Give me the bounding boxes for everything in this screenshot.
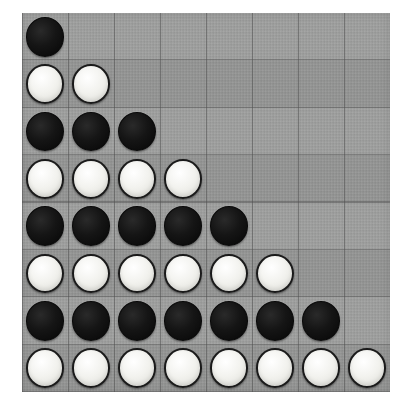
board-cell-grid [22, 13, 390, 392]
board-cell-e2[interactable] [206, 60, 252, 107]
board-cell-a2[interactable] [22, 60, 68, 107]
board-cell-f4[interactable] [252, 155, 298, 202]
board-cell-g6[interactable] [298, 250, 344, 297]
white-stone-b8 [72, 348, 111, 388]
white-stone-c8 [118, 348, 157, 388]
board-cell-d4[interactable] [160, 155, 206, 202]
board-cell-f6[interactable] [252, 250, 298, 297]
black-stone-a1 [26, 17, 65, 57]
board-cell-e5[interactable] [206, 203, 252, 250]
board-cell-c4[interactable] [114, 155, 160, 202]
black-stone-c7 [118, 301, 157, 341]
board-cell-h3[interactable] [344, 108, 390, 155]
white-stone-c4 [118, 159, 157, 199]
board-cell-c1[interactable] [114, 13, 160, 60]
board-cell-c7[interactable] [114, 297, 160, 344]
white-stone-f8 [256, 348, 295, 388]
board-cell-g1[interactable] [298, 13, 344, 60]
white-stone-f6 [256, 254, 295, 294]
black-stone-c3 [118, 112, 157, 152]
board-cell-a5[interactable] [22, 203, 68, 250]
black-stone-c5 [118, 206, 157, 246]
black-stone-e7 [210, 301, 249, 341]
white-stone-e8 [210, 348, 249, 388]
black-stone-d7 [164, 301, 203, 341]
board-cell-h8[interactable] [344, 345, 390, 392]
white-stone-a8 [26, 348, 65, 388]
white-stone-b2 [72, 64, 111, 104]
board-cell-e1[interactable] [206, 13, 252, 60]
board-cell-f1[interactable] [252, 13, 298, 60]
board-cell-a8[interactable] [22, 345, 68, 392]
white-stone-d4 [164, 159, 203, 199]
board-cell-c8[interactable] [114, 345, 160, 392]
black-stone-g7 [302, 301, 341, 341]
board-cell-a1[interactable] [22, 13, 68, 60]
board-cell-b6[interactable] [68, 250, 114, 297]
board-cell-g7[interactable] [298, 297, 344, 344]
white-stone-e6 [210, 254, 249, 294]
board-cell-d1[interactable] [160, 13, 206, 60]
board-cell-d7[interactable] [160, 297, 206, 344]
white-stone-b6 [72, 254, 111, 294]
board-cell-d6[interactable] [160, 250, 206, 297]
board-cell-a6[interactable] [22, 250, 68, 297]
board-container [22, 13, 390, 392]
black-stone-b7 [72, 301, 111, 341]
board-cell-g8[interactable] [298, 345, 344, 392]
black-stone-b3 [72, 112, 111, 152]
board-cell-h5[interactable] [344, 203, 390, 250]
board-cell-b7[interactable] [68, 297, 114, 344]
board-cell-h2[interactable] [344, 60, 390, 107]
white-stone-c6 [118, 254, 157, 294]
white-stone-a2 [26, 64, 65, 104]
black-stone-f7 [256, 301, 295, 341]
board-cell-f3[interactable] [252, 108, 298, 155]
board-cell-f2[interactable] [252, 60, 298, 107]
board-cell-e4[interactable] [206, 155, 252, 202]
black-stone-a7 [26, 301, 65, 341]
board-cell-f7[interactable] [252, 297, 298, 344]
reversi-board[interactable] [22, 13, 390, 392]
board-cell-f5[interactable] [252, 203, 298, 250]
board-cell-a3[interactable] [22, 108, 68, 155]
board-cell-d2[interactable] [160, 60, 206, 107]
board-cell-e6[interactable] [206, 250, 252, 297]
board-cell-g5[interactable] [298, 203, 344, 250]
board-cell-b1[interactable] [68, 13, 114, 60]
board-cell-e7[interactable] [206, 297, 252, 344]
board-cell-d8[interactable] [160, 345, 206, 392]
board-cell-d3[interactable] [160, 108, 206, 155]
black-stone-d5 [164, 206, 203, 246]
board-cell-f8[interactable] [252, 345, 298, 392]
board-cell-b2[interactable] [68, 60, 114, 107]
board-cell-e8[interactable] [206, 345, 252, 392]
board-cell-c2[interactable] [114, 60, 160, 107]
black-stone-a5 [26, 206, 65, 246]
board-cell-c6[interactable] [114, 250, 160, 297]
board-cell-b5[interactable] [68, 203, 114, 250]
board-cell-g4[interactable] [298, 155, 344, 202]
board-cell-a7[interactable] [22, 297, 68, 344]
board-cell-c5[interactable] [114, 203, 160, 250]
board-cell-h7[interactable] [344, 297, 390, 344]
board-cell-b8[interactable] [68, 345, 114, 392]
white-stone-d6 [164, 254, 203, 294]
board-cell-h6[interactable] [344, 250, 390, 297]
board-cell-b3[interactable] [68, 108, 114, 155]
black-stone-b5 [72, 206, 111, 246]
board-cell-e3[interactable] [206, 108, 252, 155]
board-cell-c3[interactable] [114, 108, 160, 155]
board-cell-a4[interactable] [22, 155, 68, 202]
board-cell-h1[interactable] [344, 13, 390, 60]
board-cell-d5[interactable] [160, 203, 206, 250]
white-stone-d8 [164, 348, 203, 388]
white-stone-a6 [26, 254, 65, 294]
board-cell-g3[interactable] [298, 108, 344, 155]
white-stone-h8 [348, 348, 387, 388]
board-cell-h4[interactable] [344, 155, 390, 202]
black-stone-a3 [26, 112, 65, 152]
board-cell-g2[interactable] [298, 60, 344, 107]
white-stone-g8 [302, 348, 341, 388]
board-cell-b4[interactable] [68, 155, 114, 202]
